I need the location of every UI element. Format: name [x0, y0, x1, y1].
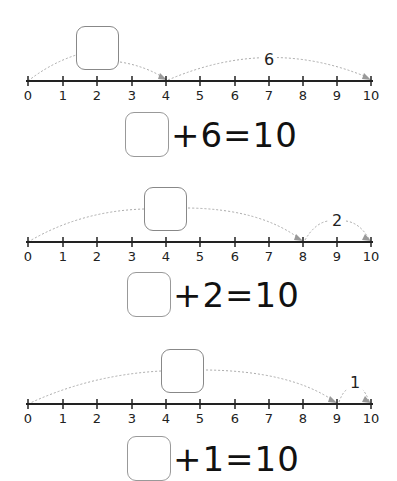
tick-label: 5 — [196, 249, 204, 264]
equation-2: +2=10 — [127, 272, 300, 317]
jump-label: 6 — [261, 50, 277, 69]
answer-box-jump[interactable] — [144, 187, 187, 231]
jump-label: 2 — [329, 211, 345, 230]
tick-label: 2 — [93, 411, 101, 426]
problem-2: 2 0 1 2 3 4 5 6 7 8 9 10 +2=10 — [0, 161, 397, 321]
tick-label: 10 — [363, 249, 380, 264]
tick-label: 4 — [162, 88, 170, 103]
equation-answer-box[interactable] — [125, 112, 169, 157]
tick-label: 0 — [24, 88, 32, 103]
tick-label: 8 — [299, 88, 307, 103]
tick-label: 1 — [59, 88, 67, 103]
tick-label: 4 — [162, 411, 170, 426]
tick-label: 9 — [333, 411, 341, 426]
tick-label: 10 — [363, 411, 380, 426]
tick-label: 9 — [333, 88, 341, 103]
tick-label: 6 — [231, 411, 239, 426]
tick-label: 8 — [299, 411, 307, 426]
tick-label: 9 — [333, 249, 341, 264]
tick-label: 3 — [128, 411, 136, 426]
tick-label: 7 — [265, 249, 273, 264]
problem-3: 1 0 1 2 3 4 5 6 7 8 9 10 +1=10 — [0, 323, 397, 472]
answer-box-jump[interactable] — [161, 349, 204, 393]
tick-label: 5 — [196, 411, 204, 426]
equation-answer-box[interactable] — [127, 272, 171, 317]
equation-text: +2=10 — [173, 275, 300, 315]
tick-label: 0 — [24, 411, 32, 426]
equation-1: +6=10 — [125, 112, 298, 157]
tick-label: 7 — [265, 88, 273, 103]
equation-answer-box[interactable] — [127, 436, 171, 481]
tick-label: 10 — [363, 88, 380, 103]
tick-label: 1 — [59, 411, 67, 426]
tick-label: 5 — [196, 88, 204, 103]
jump-label: 1 — [347, 373, 363, 392]
problem-1: 6 0 1 2 3 4 5 6 7 8 9 10 +6=10 — [0, 0, 397, 165]
tick-label: 6 — [231, 249, 239, 264]
tick-label: 2 — [93, 88, 101, 103]
equation-text: +6=10 — [171, 115, 298, 155]
answer-box-jump[interactable] — [76, 26, 119, 70]
tick-label: 2 — [93, 249, 101, 264]
tick-label: 1 — [59, 249, 67, 264]
tick-label: 8 — [299, 249, 307, 264]
equation-text: +1=10 — [173, 439, 300, 479]
equation-3: +1=10 — [127, 436, 300, 481]
tick-label: 0 — [24, 249, 32, 264]
tick-label: 3 — [128, 88, 136, 103]
tick-label: 3 — [128, 249, 136, 264]
tick-label: 6 — [231, 88, 239, 103]
tick-label: 4 — [162, 249, 170, 264]
tick-label: 7 — [265, 411, 273, 426]
